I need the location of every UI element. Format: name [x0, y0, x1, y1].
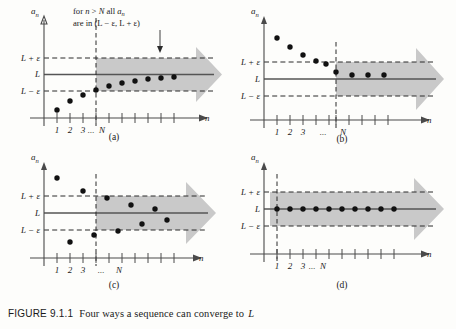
xtick-ellipsis-d: ... [309, 261, 316, 271]
y-axis-name-c: an [31, 152, 40, 164]
annotation-pointer-icon [157, 30, 163, 53]
caption-text: Four ways a sequence can converge to [79, 308, 244, 319]
xtick-2-c: 2 [68, 265, 73, 275]
label-L-minus-eps-c: L − ε [20, 225, 40, 235]
label-L-plus-eps-c: L + ε [20, 191, 40, 201]
caption-limit-symbol: L [248, 308, 254, 319]
label-L-c: L [34, 208, 40, 218]
y-axis-arrow-d [261, 162, 267, 170]
x-axis-name-a: n [205, 113, 210, 123]
xtick-3-d: 3 [300, 261, 306, 271]
xtick-2-d: 2 [288, 261, 293, 271]
annotation-line-1: for n > N all an [73, 6, 125, 17]
panel-label-b: (b) [228, 134, 456, 144]
xtick-N-d: N [319, 261, 327, 271]
y-axis-name-d: an [251, 152, 260, 164]
x-axis-name-d: n [427, 249, 432, 259]
x-axis-name-b: n [427, 115, 432, 125]
panel-b: L + ε L L − ε an n 1 2 3 ... N (b) [228, 0, 456, 150]
panel-c: L + ε L L − ε an n 1 2 3 ... N (c) [0, 152, 228, 302]
y-axis-name-b: an [251, 6, 260, 18]
figure-9-1-1: L + ε L L − ε an n 1 2 3 ... N for n > N… [0, 0, 456, 329]
panel-d: L + ε L L − ε an n 1 2 3 ... N (d) [228, 152, 456, 302]
y-axis-arrow-b [261, 16, 267, 24]
xtick-ellipsis-c: ... [98, 265, 105, 275]
label-L-minus-eps-d: L − ε [240, 221, 260, 231]
y-axis-name-a: an [31, 6, 40, 18]
label-L-plus-eps-b: L + ε [240, 57, 260, 67]
annotation-line-2: are in (L − ε, L + ε) [73, 18, 140, 28]
label-L-minus-eps-a: L − ε [20, 86, 40, 96]
xtick-N-c: N [115, 265, 123, 275]
label-L-a: L [34, 69, 40, 79]
panel-label-c: (c) [0, 280, 228, 290]
label-L-plus-eps-d: L + ε [240, 187, 260, 197]
label-L-b: L [254, 74, 260, 84]
panel-label-a: (a) [0, 132, 228, 142]
xtick-3-c: 3 [80, 265, 86, 275]
label-L-d: L [254, 204, 260, 214]
xtick-1-d: 1 [275, 261, 280, 271]
x-axis-name-c: n [199, 253, 204, 263]
panel-label-d: (d) [228, 280, 456, 290]
panel-a: L + ε L L − ε an n 1 2 3 ... N for n > N… [0, 0, 228, 150]
label-L-plus-eps-a: L + ε [20, 53, 40, 63]
label-L-minus-eps-b: L − ε [240, 91, 260, 101]
xtick-1-c: 1 [55, 265, 60, 275]
caption-number: FIGURE 9.1.1 [8, 308, 73, 319]
y-axis-arrow-c [41, 162, 47, 170]
figure-caption: FIGURE 9.1.1Four ways a sequence can con… [8, 308, 448, 319]
